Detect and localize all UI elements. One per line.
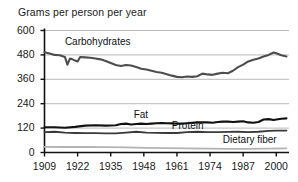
y-tick-label: 0 xyxy=(5,146,35,158)
chart-container: Grams per person per year 01202403604806… xyxy=(0,0,298,182)
y-tick-label: 120 xyxy=(5,121,35,133)
chart-axis-title: Grams per person per year xyxy=(18,6,147,18)
series-label-fat: Fat xyxy=(134,109,148,120)
series-label-carbohydrates: Carbohydrates xyxy=(65,36,131,47)
series-line-protein xyxy=(45,131,287,134)
chart-plot-area xyxy=(0,0,298,182)
y-tick-label: 240 xyxy=(5,97,35,109)
series-line-dietary-fiber xyxy=(45,147,287,149)
y-tick-label: 360 xyxy=(5,72,35,84)
x-tick-label: 1948 xyxy=(127,160,161,172)
x-tick-label: 1909 xyxy=(28,160,62,172)
y-tick-label: 600 xyxy=(5,24,35,36)
x-tick-label: 1974 xyxy=(193,160,227,172)
x-tick-label: 1961 xyxy=(160,160,194,172)
series-line-fat xyxy=(45,118,287,127)
series-label-dietary-fiber: Dietary fiber xyxy=(223,134,277,145)
x-tick-label: 2000 xyxy=(259,160,293,172)
series-line-carbohydrates xyxy=(45,52,287,77)
x-tick-label: 1922 xyxy=(61,160,95,172)
series-label-protein: Protein xyxy=(172,120,204,131)
x-tick-label: 1987 xyxy=(226,160,260,172)
y-tick-label: 480 xyxy=(5,48,35,60)
x-tick-label: 1935 xyxy=(94,160,128,172)
